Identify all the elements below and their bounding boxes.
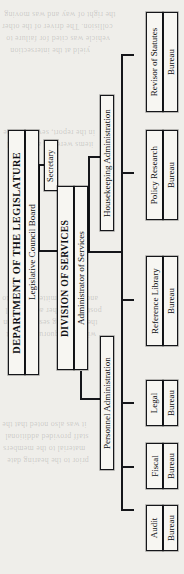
node-personnel-administration[interactable]: Personnel Administration <box>100 336 114 470</box>
node-policy-research-line1: Policy Research <box>149 146 159 204</box>
node-legal-line2: Bureau <box>165 390 175 416</box>
node-audit-line1: Audit <box>149 518 159 539</box>
node-legal-bureau[interactable]: Legal <box>146 380 163 426</box>
node-revisor-of-statutes-line2: Bureau <box>165 49 175 75</box>
scan-bleed-through-text: material to the members <box>3 444 85 453</box>
node-reference-library-bureau-suffix[interactable]: Bureau <box>163 256 178 346</box>
connector-division-trunk <box>88 156 90 252</box>
node-secretary[interactable]: Secretary <box>44 140 58 191</box>
node-reference-library-line2: Bureau <box>165 288 175 314</box>
org-chart-canvas: the right of way and was moving collisio… <box>0 0 184 574</box>
node-legal-line1: Legal <box>149 393 159 414</box>
node-revisor-of-statutes-bureau-suffix[interactable]: Bureau <box>163 12 178 112</box>
scan-bleed-through-text: staff provided additional <box>5 432 89 441</box>
node-fiscal-bureau[interactable]: Fiscal <box>146 443 163 489</box>
connector-division-to-personnel <box>80 398 100 400</box>
node-housekeeping-administration-label: Housekeeping Administration <box>102 109 112 217</box>
node-audit-line2: Bureau <box>165 515 175 541</box>
connector-spine-to-fiscal <box>121 466 134 468</box>
node-division-of-services-title: DIVISION OF SERVICES <box>60 219 71 336</box>
node-department-title: DEPARTMENT OF THE LEGISLATURE <box>11 152 23 354</box>
connector-division-to-personnel-stub <box>80 371 82 399</box>
node-policy-research-bureau[interactable]: Policy Research <box>146 130 163 220</box>
node-administrator-of-services-label: Administrator of Services <box>76 231 86 325</box>
scan-bleed-through-text: prior to the hearing date <box>7 456 89 465</box>
node-legislative-council-board-label: Legislative Council Board <box>27 205 37 301</box>
node-audit-bureau[interactable]: Audit <box>146 505 163 551</box>
connector-spine-to-audit <box>121 509 134 511</box>
connector-spine-to-reference <box>121 299 134 301</box>
scan-bleed-through-text: yield at the intersection <box>10 46 90 55</box>
node-division-of-services[interactable]: DIVISION OF SERVICES <box>57 186 74 370</box>
node-reference-library-bureau[interactable]: Reference Library <box>146 256 163 346</box>
scan-bleed-through-text: vehicle was cited for failure to <box>6 34 110 43</box>
node-fiscal-bureau-suffix[interactable]: Bureau <box>163 443 178 489</box>
connector-spine-to-policy <box>121 172 134 174</box>
node-legislative-council-board[interactable]: Legislative Council Board <box>25 130 39 375</box>
node-housekeeping-administration[interactable]: Housekeeping Administration <box>100 95 114 231</box>
scan-bleed-through-text: collision. The driver of the other <box>2 22 113 31</box>
node-revisor-of-statutes-line1: Revisor of Statutes <box>149 28 159 97</box>
connector-bureau-spine <box>121 54 123 510</box>
node-policy-research-line2: Bureau <box>165 162 175 188</box>
node-reference-library-line1: Reference Library <box>149 268 159 334</box>
connector-division-to-housekeeping <box>88 156 100 158</box>
node-personnel-administration-label: Personnel Administration <box>102 357 112 449</box>
scan-bleed-through-text: it was also noted that the <box>2 420 87 429</box>
node-revisor-of-statutes-bureau[interactable]: Revisor of Statutes <box>146 12 163 112</box>
node-legal-bureau-suffix[interactable]: Bureau <box>163 380 178 426</box>
scan-bleed-through-text: the right of way and was moving <box>4 10 116 19</box>
connector-spine-to-revisor <box>121 54 134 56</box>
node-secretary-label: Secretary <box>46 149 56 181</box>
node-policy-research-bureau-suffix[interactable]: Bureau <box>163 130 178 220</box>
node-fiscal-line2: Bureau <box>165 453 175 479</box>
node-administrator-of-services[interactable]: Administrator of Services <box>74 186 88 370</box>
connector-division-to-bureau-spine <box>88 251 123 253</box>
node-fiscal-line1: Fiscal <box>149 455 159 477</box>
connector-spine-to-legal <box>121 402 134 404</box>
node-audit-bureau-suffix[interactable]: Bureau <box>163 505 178 551</box>
connector-department-to-division <box>38 250 58 252</box>
node-department-of-the-legislature[interactable]: DEPARTMENT OF THE LEGISLATURE <box>8 130 25 375</box>
